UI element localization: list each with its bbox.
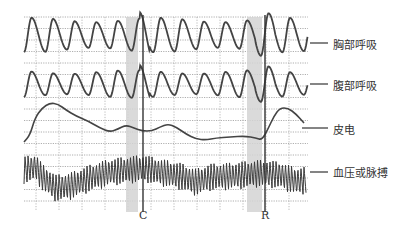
label-thoracic-respiration: 胸部呼吸 bbox=[333, 36, 377, 52]
event-marker-c: C bbox=[139, 209, 147, 222]
label-abdominal-respiration: 腹部呼吸 bbox=[333, 77, 377, 93]
trace-blood-pressure-pulse bbox=[24, 156, 306, 202]
label-skin-conductance: 皮电 bbox=[333, 121, 355, 137]
leader-lines bbox=[302, 43, 328, 172]
label-blood-pressure-pulse: 血压或脉搏 bbox=[333, 164, 388, 180]
event-marker-r: R bbox=[261, 209, 269, 222]
